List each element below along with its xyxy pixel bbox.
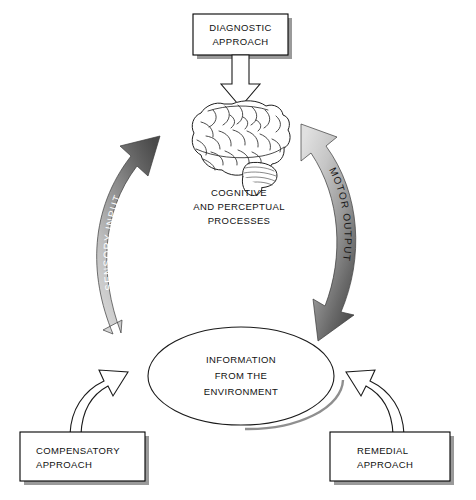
diagnostic-box-frame bbox=[193, 14, 288, 55]
brain-illustration bbox=[192, 101, 290, 196]
sensory-input-arrow: SENSORY INPUT bbox=[97, 136, 160, 334]
environment-line2: FROM THE bbox=[215, 370, 268, 381]
compensatory-to-environment-arrow bbox=[70, 370, 128, 434]
remedial-to-environment-arrow bbox=[346, 370, 404, 434]
diagnostic-to-brain-arrow-shape bbox=[221, 55, 260, 107]
compensatory-approach-box[interactable]: COMPENSATORY APPROACH bbox=[20, 432, 149, 485]
cycle-diagram: DIAGNOSTIC APPROACH bbox=[0, 0, 476, 500]
environment-line1: INFORMATION bbox=[206, 354, 276, 365]
remedial-approach-line1: REMEDIAL bbox=[357, 445, 408, 456]
remedial-approach-box[interactable]: REMEDIAL APPROACH bbox=[330, 432, 454, 485]
compensatory-approach-line1: COMPENSATORY bbox=[36, 445, 120, 456]
diagnostic-approach-line2: APPROACH bbox=[212, 36, 268, 47]
diagnostic-approach-box[interactable]: DIAGNOSTIC APPROACH bbox=[193, 14, 292, 59]
brain-caption: COGNITIVE AND PERCEPTUAL PROCESSES bbox=[193, 187, 285, 226]
diagnostic-to-brain-arrow bbox=[221, 55, 260, 107]
compensatory-box-frame bbox=[20, 432, 145, 481]
brain-cortex-outline bbox=[192, 101, 290, 175]
remedial-box-frame bbox=[330, 432, 450, 481]
environment-line3: ENVIRONMENT bbox=[204, 386, 279, 397]
compensatory-arrow-shape bbox=[70, 370, 128, 434]
information-environment-ellipse[interactable]: INFORMATION FROM THE ENVIRONMENT bbox=[148, 327, 343, 429]
compensatory-approach-line2: APPROACH bbox=[36, 459, 92, 470]
brain-caption-line2: AND PERCEPTUAL bbox=[193, 201, 285, 212]
remedial-approach-line2: APPROACH bbox=[357, 459, 413, 470]
diagram-canvas: DIAGNOSTIC APPROACH bbox=[0, 0, 476, 500]
diagnostic-approach-line1: DIAGNOSTIC bbox=[209, 22, 272, 33]
brain-caption-line3: PROCESSES bbox=[208, 215, 271, 226]
brain-caption-line1: COGNITIVE bbox=[211, 187, 267, 198]
remedial-arrow-shape bbox=[346, 370, 404, 434]
motor-output-arrow: MOTOR OUTPUT bbox=[301, 124, 356, 341]
